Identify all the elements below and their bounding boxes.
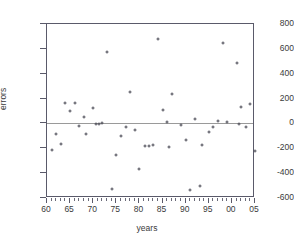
data-point	[152, 144, 155, 147]
x-axis-minor-tick	[97, 198, 98, 201]
x-axis-minor-tick	[175, 198, 176, 201]
x-axis-minor-tick	[60, 198, 61, 201]
x-axis-minor-tick	[212, 198, 213, 201]
x-axis-minor-tick	[129, 198, 130, 201]
x-axis-minor-tick	[125, 198, 126, 201]
data-point	[166, 121, 169, 124]
y-axis-tick	[40, 172, 46, 173]
x-axis-minor-tick	[226, 198, 227, 201]
x-axis-minor-tick	[236, 198, 237, 201]
y-axis-title: errors	[0, 88, 8, 110]
x-axis-major-tick	[46, 198, 47, 203]
data-point	[244, 125, 247, 128]
y-axis-tick-label: -600	[256, 193, 294, 202]
x-axis-tick-label: 65	[64, 205, 73, 214]
y-axis-tick	[40, 23, 46, 24]
data-point	[133, 128, 136, 131]
x-axis-minor-tick	[245, 198, 246, 201]
x-axis-title: years	[0, 223, 294, 233]
scatter-plot-figure: errors years 8006004002000-200-400-60060…	[0, 0, 294, 245]
x-axis-minor-tick	[74, 198, 75, 201]
data-point	[207, 130, 210, 133]
y-axis-tick-label: 400	[256, 68, 294, 77]
data-point	[189, 188, 192, 191]
x-axis-minor-tick	[51, 198, 52, 201]
data-point	[82, 116, 85, 119]
x-axis-minor-tick	[240, 198, 241, 201]
data-point	[240, 106, 243, 109]
data-point	[226, 120, 229, 123]
x-axis-minor-tick	[143, 198, 144, 201]
data-point	[198, 185, 201, 188]
data-point	[180, 124, 183, 127]
y-axis-tick	[40, 73, 46, 74]
x-axis-tick-label: 70	[87, 205, 96, 214]
y-axis-tick-label: 800	[256, 19, 294, 28]
data-point	[69, 109, 72, 112]
x-axis-major-tick	[231, 198, 232, 203]
x-axis-major-tick	[208, 198, 209, 203]
x-axis-minor-tick	[106, 198, 107, 201]
data-point	[101, 122, 104, 125]
x-axis-minor-tick	[171, 198, 172, 201]
y-axis-tick-label: 200	[256, 93, 294, 102]
x-axis-minor-tick	[120, 198, 121, 201]
x-axis-minor-tick	[152, 198, 153, 201]
data-point	[184, 138, 187, 141]
y-axis-tick	[40, 48, 46, 49]
x-axis-minor-tick	[78, 198, 79, 201]
x-axis-minor-tick	[148, 198, 149, 201]
x-axis-minor-tick	[134, 198, 135, 201]
x-axis-minor-tick	[101, 198, 102, 201]
x-axis-tick-label: 80	[134, 205, 143, 214]
data-point	[59, 142, 62, 145]
x-axis-major-tick	[162, 198, 163, 203]
x-axis-tick-label: 60	[41, 205, 50, 214]
x-axis-major-tick	[254, 198, 255, 203]
x-axis-minor-tick	[88, 198, 89, 201]
data-point	[124, 126, 127, 129]
x-axis-tick-label: 95	[203, 205, 212, 214]
data-point	[64, 101, 67, 104]
data-point	[55, 132, 58, 135]
data-point	[147, 144, 150, 147]
x-axis-minor-tick	[180, 198, 181, 201]
x-axis-major-tick	[115, 198, 116, 203]
data-point	[115, 154, 118, 157]
y-axis-tick	[40, 147, 46, 148]
data-point	[85, 133, 88, 136]
data-point	[106, 50, 109, 53]
x-axis-minor-tick	[217, 198, 218, 201]
y-axis-tick-label: -200	[256, 143, 294, 152]
x-axis-minor-tick	[194, 198, 195, 201]
data-point	[168, 146, 171, 149]
data-point	[235, 62, 238, 65]
data-point	[212, 125, 215, 128]
data-point	[237, 123, 240, 126]
data-point	[50, 149, 53, 152]
y-axis-tick-label: 600	[256, 43, 294, 52]
data-point	[78, 125, 81, 128]
y-axis-tick	[40, 98, 46, 99]
data-point	[221, 42, 224, 45]
x-axis-major-tick	[185, 198, 186, 203]
plot-area	[46, 23, 254, 197]
y-axis-tick	[40, 122, 46, 123]
data-point	[73, 101, 76, 104]
data-point	[92, 106, 95, 109]
x-axis-tick-label: 00	[226, 205, 235, 214]
data-point	[161, 109, 164, 112]
data-point	[138, 168, 141, 171]
y-axis-tick-label: -400	[256, 168, 294, 177]
x-axis-tick-label: 75	[111, 205, 120, 214]
x-axis-tick-label: 05	[249, 205, 258, 214]
x-axis-minor-tick	[64, 198, 65, 201]
x-axis-tick-label: 90	[180, 205, 189, 214]
x-axis-minor-tick	[111, 198, 112, 201]
data-point	[170, 92, 173, 95]
x-axis-minor-tick	[203, 198, 204, 201]
data-point	[200, 144, 203, 147]
data-point	[249, 102, 252, 105]
data-point	[129, 90, 132, 93]
data-point	[217, 120, 220, 123]
